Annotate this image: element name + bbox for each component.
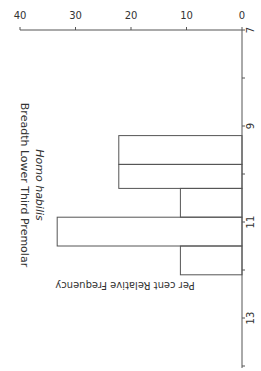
y-tick-label: 10: [180, 10, 193, 21]
x-tick-label: 7: [245, 27, 256, 33]
y-tick-label: 30: [69, 10, 82, 21]
y-tick-label: 40: [14, 10, 27, 21]
chart-title: Homo habilis: [33, 149, 46, 221]
histogram-bar: [119, 136, 242, 165]
x-axis-ticks: 791113: [242, 27, 256, 366]
histogram-chart: 791113 010203040 Homo habilis Breadth Lo…: [0, 0, 261, 371]
chart-subtitle: Breadth Lower Third Premolar: [18, 103, 31, 268]
histogram-bar: [57, 217, 242, 246]
x-tick-label: 11: [245, 216, 256, 229]
histogram-bar: [180, 188, 242, 217]
y-tick-label: 0: [239, 10, 245, 21]
x-tick-label: 9: [245, 123, 256, 129]
histogram-bars: [57, 136, 242, 275]
histogram-bar: [180, 246, 242, 275]
histogram-bar: [119, 164, 242, 188]
y-tick-label: 20: [125, 10, 138, 21]
y-axis-ticks: 010203040: [14, 10, 246, 30]
y-axis-label: Per cent Relative Frequency: [55, 280, 194, 291]
x-tick-label: 13: [245, 312, 256, 325]
